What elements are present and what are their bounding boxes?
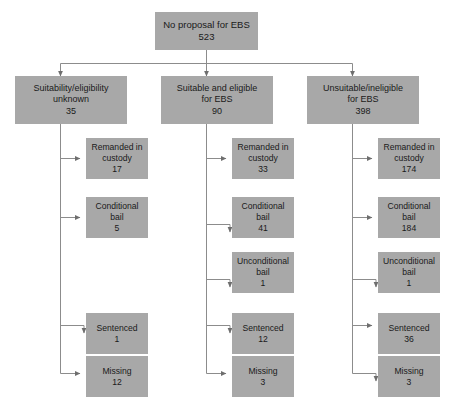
node-label: Unconditional bail xyxy=(237,256,289,278)
node-value: 3 xyxy=(261,377,266,388)
node-value: 35 xyxy=(66,106,76,118)
node-left-missing: Missing 12 xyxy=(86,356,148,397)
node-middle-unconditional-bail: Unconditional bail 1 xyxy=(232,252,294,293)
node-value: 33 xyxy=(258,164,268,175)
node-value: 1 xyxy=(407,278,412,289)
node-label: Missing xyxy=(248,366,277,377)
node-left-conditional-bail: Conditional bail 5 xyxy=(86,197,148,238)
node-label: Missing xyxy=(102,366,131,377)
node-label: Remanded in custody xyxy=(237,142,288,164)
node-value: 523 xyxy=(199,31,215,43)
node-middle-conditional-bail: Conditional bail 41 xyxy=(232,197,294,238)
node-suitable-eligible: Suitable and eligible for EBS 90 xyxy=(161,76,273,124)
node-label: Sentenced xyxy=(96,323,137,334)
node-value: 3 xyxy=(407,377,412,388)
flowchart-diagram: No proposal for EBS 523 Suitability/elig… xyxy=(0,0,468,415)
node-value: 184 xyxy=(402,223,416,234)
node-root: No proposal for EBS 523 xyxy=(155,12,258,50)
node-middle-missing: Missing 3 xyxy=(232,356,294,397)
node-value: 36 xyxy=(404,334,414,345)
node-suitability-unknown: Suitability/eligibility unknown 35 xyxy=(15,76,127,124)
node-label: Sentenced xyxy=(242,323,283,334)
node-value: 12 xyxy=(112,377,122,388)
node-left-remanded-in-custody: Remanded in custody 17 xyxy=(86,138,148,179)
node-label: Unconditional bail xyxy=(383,256,435,278)
node-value: 12 xyxy=(258,334,268,345)
node-right-remanded-in-custody: Remanded in custody 174 xyxy=(378,138,440,179)
node-label: Conditional bail xyxy=(388,201,431,223)
node-value: 90 xyxy=(212,106,222,118)
node-label: Sentenced xyxy=(388,323,429,334)
node-middle-remanded-in-custody: Remanded in custody 33 xyxy=(232,138,294,179)
node-label: Conditional bail xyxy=(242,201,285,223)
node-label: Unsuitable/ineligible for EBS xyxy=(323,83,403,106)
node-value: 174 xyxy=(402,164,416,175)
node-right-conditional-bail: Conditional bail 184 xyxy=(378,197,440,238)
node-label: No proposal for EBS xyxy=(163,19,250,31)
node-label: Remanded in custody xyxy=(383,142,434,164)
node-right-missing: Missing 3 xyxy=(378,356,440,397)
node-value: 5 xyxy=(115,223,120,234)
node-value: 17 xyxy=(112,164,122,175)
node-label: Remanded in custody xyxy=(91,142,142,164)
node-right-sentenced: Sentenced 36 xyxy=(378,313,440,354)
node-value: 41 xyxy=(258,223,268,234)
node-middle-sentenced: Sentenced 12 xyxy=(232,313,294,354)
node-value: 398 xyxy=(355,106,370,118)
node-value: 1 xyxy=(115,334,120,345)
node-left-sentenced: Sentenced 1 xyxy=(86,313,148,354)
node-label: Suitable and eligible for EBS xyxy=(177,83,258,106)
node-right-unconditional-bail: Unconditional bail 1 xyxy=(378,252,440,293)
node-label: Missing xyxy=(394,366,423,377)
node-label: Conditional bail xyxy=(96,201,139,223)
node-value: 1 xyxy=(261,278,266,289)
node-unsuitable-ineligible: Unsuitable/ineligible for EBS 398 xyxy=(307,76,419,124)
node-label: Suitability/eligibility unknown xyxy=(33,83,108,106)
